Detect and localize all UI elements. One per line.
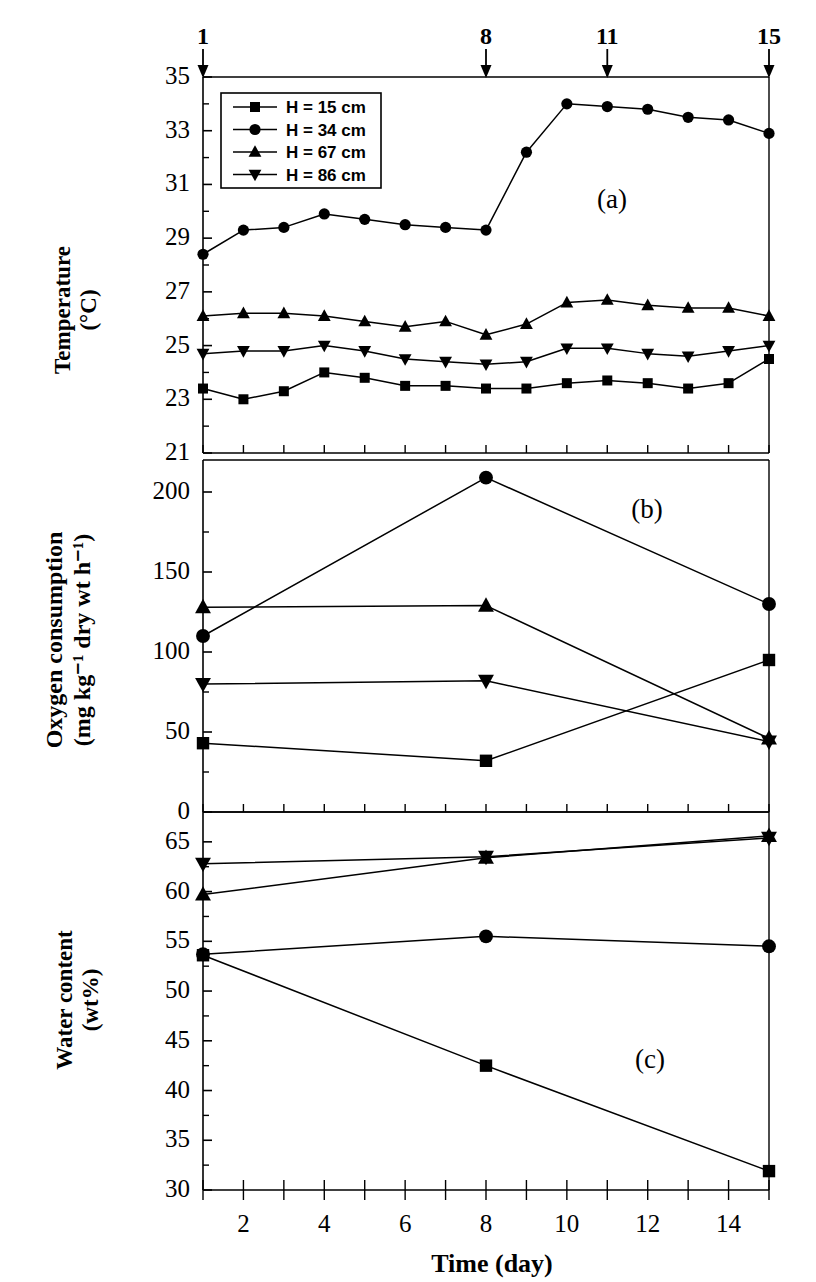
panel-1-ytick-label: 150 — [153, 557, 191, 584]
top-marker-label: 8 — [480, 23, 492, 49]
svg-text:(mg kg⁻¹ dry wt h⁻¹): (mg kg⁻¹ dry wt h⁻¹) — [69, 534, 95, 746]
panel-0-series-1-point — [723, 114, 734, 125]
panel-0-ytick-label: 25 — [165, 331, 190, 358]
panel-2-series-1-point — [479, 929, 493, 943]
panel-1-series-2-line — [203, 606, 769, 739]
panel-0-series-3-point — [682, 351, 695, 363]
panel-0-ytick-label: 27 — [165, 277, 190, 304]
panel-0-series-1-point — [642, 104, 653, 115]
panel-1-ytick-label: 200 — [153, 477, 191, 504]
panel-2-ytick-label: 45 — [165, 1026, 190, 1053]
panel-2-series-0-point — [763, 1165, 775, 1177]
panel-0-series-0-point — [481, 384, 491, 394]
legend-marker-square-icon — [250, 102, 260, 112]
legend-label-1: H = 34 cm — [286, 121, 366, 140]
panel-0-series-2-point — [601, 293, 614, 305]
panel-0-series-3-point — [480, 360, 493, 372]
panel-0-series-1-point — [480, 224, 491, 235]
panel-1-ytick-label: 50 — [165, 717, 190, 744]
top-marker-label: 15 — [757, 23, 781, 49]
panel-0-series-0-point — [643, 378, 653, 388]
panel-2-series-0-point — [480, 1059, 492, 1071]
panel-2-series-1-point — [762, 939, 776, 953]
panel-0-series-0-point — [360, 373, 370, 383]
panel-1-series-2-point — [195, 599, 211, 613]
top-marker-arrow-head — [481, 65, 492, 78]
panel-0-series-1-point — [238, 224, 249, 235]
legend-label-0: H = 15 cm — [286, 98, 366, 117]
panel-0-series-0-point — [400, 381, 410, 391]
panel-0-ytick-label: 33 — [165, 116, 190, 143]
xaxis-tick-label: 4 — [318, 1210, 331, 1237]
svg-text:(wt%): (wt%) — [78, 969, 103, 1032]
panel-0-series-0-point — [602, 375, 612, 385]
panel-0-series-0-point — [238, 394, 248, 404]
top-marker-arrow-head — [764, 65, 775, 78]
svg-text:(°C): (°C) — [76, 289, 101, 330]
panel-label-c: (c) — [635, 1044, 665, 1074]
panel-0-series-0-point — [724, 378, 734, 388]
panel-2-series-3-point — [195, 858, 211, 872]
panel-0-ytick-label: 35 — [165, 62, 190, 89]
panel-0-series-1-point — [602, 101, 613, 112]
panel-1-series-1-point — [762, 597, 776, 611]
panel-0-series-2-point — [722, 301, 735, 313]
panel-b-y-axis-title: Oxygen consumption(mg kg⁻¹ dry wt h⁻¹) — [41, 532, 95, 749]
panel-2-ytick-label: 65 — [165, 827, 190, 854]
legend-label-3: H = 86 cm — [286, 166, 366, 185]
panel-label-b: (b) — [631, 494, 662, 524]
legend-label-2: H = 67 cm — [286, 143, 366, 162]
panel-label-a: (a) — [597, 184, 627, 214]
panel-1-series-0-point — [197, 737, 209, 749]
panel-0-series-1-point — [278, 222, 289, 233]
panel-1-series-1-point — [479, 471, 493, 485]
figure-root: 2123252729313335050100150200303540455055… — [0, 0, 816, 1282]
panel-0-series-0-point — [521, 384, 531, 394]
top-marker-arrow-head — [198, 65, 209, 78]
panel-1-ytick-label: 100 — [153, 637, 191, 664]
panel-0-ytick-label: 31 — [165, 169, 190, 196]
xaxis-tick-label: 12 — [635, 1210, 660, 1237]
panel-0-series-0-point — [683, 384, 693, 394]
panel-0-series-1-point — [763, 128, 774, 139]
xaxis-title: Time (day) — [431, 1249, 553, 1278]
panel-0-ytick-label: 29 — [165, 223, 190, 250]
panel-2-ytick-label: 55 — [165, 926, 190, 953]
svg-text:Water content: Water content — [52, 930, 77, 1070]
panel-0-series-2-point — [439, 315, 452, 327]
panel-1-series-3-point — [195, 678, 211, 692]
panel-0-series-2-point — [237, 307, 250, 319]
panel-1-series-0-point — [763, 654, 775, 666]
panel-1-ytick-label: 0 — [178, 797, 191, 824]
panel-0-series-1-point — [359, 214, 370, 225]
xaxis-tick-label: 10 — [554, 1210, 579, 1237]
panel-0-series-2-point — [520, 317, 533, 329]
panel-1-series-0-point — [480, 755, 492, 767]
panel-0-series-0-point — [198, 384, 208, 394]
svg-text:Temperature: Temperature — [50, 246, 75, 374]
xaxis-tick-label: 8 — [480, 1210, 493, 1237]
panel-0-series-0-point — [764, 354, 774, 364]
xaxis-tick-label: 6 — [399, 1210, 412, 1237]
panel-0-series-3-point — [277, 346, 290, 358]
panel-0-series-1-point — [440, 222, 451, 233]
panel-2-ytick-label: 30 — [165, 1175, 190, 1202]
top-marker-arrow-head — [602, 65, 613, 78]
panel-0-series-2-point — [277, 307, 290, 319]
panel-0-series-1-point — [561, 98, 572, 109]
panel-0-series-0-point — [319, 367, 329, 377]
panel-0-series-1-point — [521, 147, 532, 158]
panel-1-series-2-point — [478, 597, 494, 611]
panel-2-ytick-label: 35 — [165, 1125, 190, 1152]
panel-1-series-1-point — [196, 629, 210, 643]
panel-0-series-0-point — [279, 386, 289, 396]
panel-2-series-1-point — [196, 947, 210, 961]
panel-a-y-axis-title: Temperature(°C) — [50, 246, 101, 374]
panel-0-series-1-point — [683, 112, 694, 123]
top-marker-label: 1 — [197, 23, 209, 49]
panel-c-y-axis-title: Water content(wt%) — [52, 930, 103, 1070]
panel-0-ytick-label: 21 — [165, 438, 190, 465]
panel-2-ytick-label: 50 — [165, 976, 190, 1003]
panel-2-ytick-label: 40 — [165, 1076, 190, 1103]
panel-0-ytick-label: 23 — [165, 384, 190, 411]
